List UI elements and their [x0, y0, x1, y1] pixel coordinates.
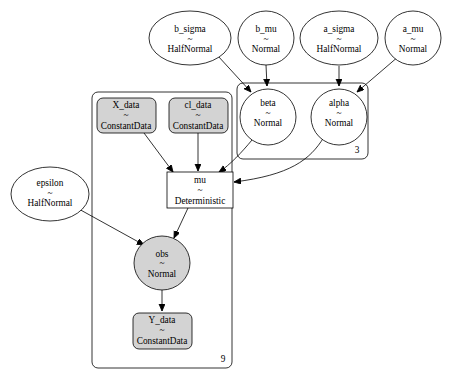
- edge-a_mu-alpha: [357, 56, 399, 92]
- node-a_sigma-tilde: ~: [336, 34, 341, 44]
- node-cl_data-dist: ConstantData: [173, 121, 224, 131]
- node-b_sigma[interactable]: b_sigma ~ HalfNormal: [149, 11, 231, 65]
- node-b_mu-dist: Normal: [252, 44, 281, 54]
- node-Y_data[interactable]: Y_data ~ ConstantData: [133, 313, 192, 349]
- edge-X_data-mu: [144, 133, 173, 172]
- node-a_mu-tilde: ~: [410, 34, 415, 44]
- edge-alpha-mu: [234, 137, 324, 182]
- node-epsilon-dist: HalfNormal: [28, 198, 73, 208]
- node-obs-dist: Normal: [148, 269, 177, 279]
- node-b_mu-tilde: ~: [263, 34, 268, 44]
- node-a_sigma-name: a_sigma: [324, 24, 355, 34]
- node-X_data-dist: ConstantData: [101, 121, 152, 131]
- node-beta-name: beta: [260, 98, 275, 108]
- node-beta[interactable]: beta ~ Normal: [240, 89, 296, 145]
- node-beta-dist: Normal: [254, 118, 283, 128]
- node-epsilon[interactable]: epsilon ~ HalfNormal: [11, 167, 89, 221]
- node-alpha-tilde: ~: [336, 108, 341, 118]
- node-cl_data[interactable]: cl_data ~ ConstantData: [169, 98, 228, 133]
- node-b_sigma-dist: HalfNormal: [168, 44, 213, 54]
- node-cl_data-name: cl_data: [185, 100, 212, 110]
- edge-mu-obs: [174, 208, 188, 238]
- node-b_sigma-tilde: ~: [187, 34, 192, 44]
- node-Y_data-tilde: ~: [159, 325, 164, 335]
- node-mu-dist: Deterministic: [175, 196, 226, 206]
- node-alpha-dist: Normal: [325, 118, 354, 128]
- node-a_mu-dist: Normal: [399, 44, 428, 54]
- node-a_mu-name: a_mu: [403, 24, 424, 34]
- node-obs-tilde: ~: [159, 258, 164, 268]
- model-graph: 3 9 b_sigma ~ HalfNormal b_mu ~ Normal a…: [0, 0, 452, 376]
- node-a_sigma-dist: HalfNormal: [317, 44, 362, 54]
- edge-b_sigma-beta: [218, 56, 251, 92]
- node-a_sigma[interactable]: a_sigma ~ HalfNormal: [300, 11, 378, 65]
- node-b_mu[interactable]: b_mu ~ Normal: [238, 11, 294, 65]
- edge-epsilon-obs: [77, 208, 144, 245]
- node-Y_data-dist: ConstantData: [137, 336, 188, 346]
- node-alpha[interactable]: alpha ~ Normal: [311, 89, 367, 145]
- plate-3-label: 3: [355, 145, 360, 155]
- node-b_sigma-name: b_sigma: [174, 24, 206, 34]
- node-X_data-tilde: ~: [123, 110, 128, 120]
- node-mu-tilde: ~: [197, 185, 202, 195]
- node-a_mu[interactable]: a_mu ~ Normal: [385, 11, 441, 65]
- node-obs[interactable]: obs ~ Normal: [134, 236, 190, 290]
- node-cl_data-tilde: ~: [195, 110, 200, 120]
- node-epsilon-name: epsilon: [37, 178, 64, 188]
- plate-9-label: 9: [221, 354, 226, 364]
- node-mu-name: mu: [194, 175, 206, 185]
- node-alpha-name: alpha: [329, 98, 349, 108]
- node-b_mu-name: b_mu: [255, 24, 277, 34]
- node-X_data-name: X_data: [113, 100, 140, 110]
- edge-beta-mu: [219, 140, 252, 172]
- node-X_data[interactable]: X_data ~ ConstantData: [97, 98, 156, 133]
- node-mu[interactable]: mu ~ Deterministic: [167, 172, 233, 208]
- node-epsilon-tilde: ~: [47, 188, 52, 198]
- node-beta-tilde: ~: [265, 108, 270, 118]
- node-Y_data-name: Y_data: [149, 315, 176, 325]
